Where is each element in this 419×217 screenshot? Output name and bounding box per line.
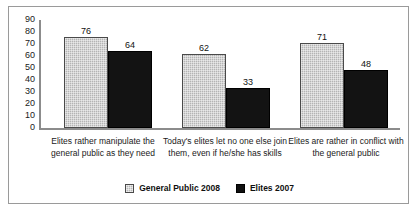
bar-value-label: 64 [125,40,135,50]
category-label-2: Today's elites let no one else join them… [161,136,289,159]
legend-item-general-public[interactable]: General Public 2008 [125,183,220,193]
plot-area: 90 80 70 60 50 40 30 20 10 0 76 64 62 33… [39,20,400,130]
category-label-3: Elites are rather in conflict with the g… [287,136,405,159]
bar-value-label: 76 [81,26,91,36]
bar-value-label: 62 [199,43,209,53]
bar-value-label: 71 [317,32,327,42]
legend-label: Elites 2007 [250,183,294,193]
legend-label: General Public 2008 [139,183,220,193]
chart-frame: 90 80 70 60 50 40 30 20 10 0 76 64 62 33… [8,6,409,204]
category-axis-labels: Elites rather manipulate the general pub… [41,136,401,174]
y-tick-label: 70 [9,38,35,48]
x-axis-line [39,128,400,130]
y-tick-label: 20 [9,98,35,108]
y-axis-line [39,20,41,130]
bar-value-label: 33 [243,77,253,87]
gray-hatched-swatch-icon [125,184,134,193]
y-tick-label: 80 [9,26,35,36]
y-axis-tick-labels: 90 80 70 60 50 40 30 20 10 0 [9,14,35,136]
bar-general-public-2[interactable]: 62 [182,54,226,128]
bar-general-public-1[interactable]: 76 [64,37,108,128]
y-tick-label: 50 [9,62,35,72]
y-tick-label: 30 [9,86,35,96]
category-label-1: Elites rather manipulate the general pub… [41,136,165,159]
black-swatch-icon [236,184,245,193]
bar-elites-1[interactable]: 64 [108,51,152,128]
chart-legend: General Public 2008 Elites 2007 [9,183,410,193]
bar-value-label: 48 [361,59,371,69]
y-tick-label: 40 [9,74,35,84]
bar-elites-2[interactable]: 33 [226,88,270,128]
legend-item-elites[interactable]: Elites 2007 [236,183,294,193]
y-tick-label: 10 [9,110,35,120]
y-tick-label: 60 [9,50,35,60]
bar-elites-3[interactable]: 48 [344,70,388,128]
y-tick-label: 0 [9,122,35,132]
y-tick-label: 90 [9,14,35,24]
bar-general-public-3[interactable]: 71 [300,43,344,128]
